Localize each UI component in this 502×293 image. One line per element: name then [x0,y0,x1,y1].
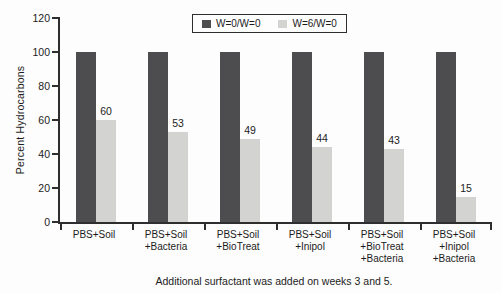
bar [240,139,260,222]
bar [220,52,240,222]
x-category-label-line: PBS+Soil [130,229,202,241]
chart-caption: Additional surfactant was added on weeks… [58,275,490,287]
bar [96,120,116,222]
bar [364,52,384,222]
bar [456,197,476,223]
y-axis-tick-label: 60 [18,114,50,126]
bar [384,149,404,222]
y-axis-tick-label: 40 [18,148,50,160]
legend-label: W=0/W=0 [216,18,260,29]
bar [292,52,312,222]
x-category-label-line: +Inipol [274,241,346,253]
x-category-label: PBS+Soil [58,229,130,241]
x-axis-labels: PBS+SoilPBS+Soil+BacteriaPBS+Soil+BioTre… [58,229,490,271]
bar [148,52,168,222]
x-category-label-line: PBS+Soil [418,229,490,241]
y-axis-tick [52,85,60,87]
y-axis-tick-label: 120 [18,12,50,24]
y-axis-tick-label: 20 [18,182,50,194]
legend-item: W=6/W=0 [278,18,336,29]
x-category-label-line: +BioTreat [346,241,418,253]
x-category-label: PBS+Soil+Inipol+Bacteria [418,229,490,265]
bar-value-label: 53 [172,118,184,129]
x-category-label: PBS+Soil+Inipol [274,229,346,253]
bar [168,132,188,222]
y-axis-tick-label: 0 [18,216,50,228]
bar [76,52,96,222]
legend-label: W=6/W=0 [292,18,336,29]
y-axis-tick [52,221,60,223]
legend-swatch-icon [202,20,211,28]
bar [312,147,332,222]
x-category-label-line: +Bacteria [418,253,490,265]
bar [436,52,456,222]
plot-area: 020406080100120605349444315 [58,18,492,224]
bar-value-label: 60 [100,106,112,117]
x-category-label: PBS+Soil+BioTreat+Bacteria [346,229,418,265]
y-axis-tick [52,17,60,19]
x-category-label-line: +Inipol [418,241,490,253]
bar-value-label: 43 [388,135,400,146]
x-category-label-line: PBS+Soil [202,229,274,241]
x-category-label-line: +BioTreat [202,241,274,253]
x-category-label-line: +Bacteria [346,253,418,265]
bar-value-label: 15 [460,183,472,194]
legend-item: W=0/W=0 [202,18,260,29]
x-category-label-line: PBS+Soil [58,229,130,241]
x-category-label-line: PBS+Soil [346,229,418,241]
x-axis-tick [490,224,492,230]
y-axis-tick [52,153,60,155]
x-category-label: PBS+Soil+Bacteria [130,229,202,253]
x-category-label-line: PBS+Soil [274,229,346,241]
x-category-label-line: +Bacteria [130,241,202,253]
bar-value-label: 49 [244,125,256,136]
y-axis-tick [52,119,60,121]
y-axis-tick-label: 100 [18,46,50,58]
bar-chart-figure: Percent Hydrocarbons 0204060801001206053… [0,0,502,293]
x-category-label: PBS+Soil+BioTreat [202,229,274,253]
legend: W=0/W=0W=6/W=0 [192,14,347,33]
y-axis-tick-label: 80 [18,80,50,92]
y-axis-tick [52,187,60,189]
y-axis-tick [52,51,60,53]
bar-value-label: 44 [316,133,328,144]
legend-swatch-icon [278,20,287,28]
